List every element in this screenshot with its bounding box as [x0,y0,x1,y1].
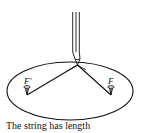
focus-label-right: F [107,76,114,86]
ellipse-diagram: F' F [0,0,141,133]
focus-label-left: F' [23,76,32,86]
string [27,65,111,95]
pencil-icon [73,12,80,65]
caption: The string has length [6,120,90,131]
